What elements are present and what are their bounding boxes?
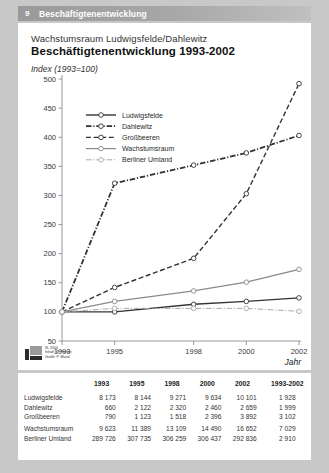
y-tick-label: 200 — [43, 249, 56, 258]
table-row: Großbeeren7901 1231 5182 3963 8923 102 — [18, 412, 311, 422]
table-col-header-2002: 2002 — [228, 377, 263, 390]
legend-label-2: Großbeeren — [122, 134, 160, 141]
table-cell: 660 — [88, 402, 123, 412]
legend-marker-0 — [99, 113, 104, 118]
data-point — [297, 296, 302, 301]
table-cell: 13 109 — [158, 421, 193, 433]
table-cell: 2 122 — [123, 402, 158, 412]
legend-marker-4 — [99, 158, 104, 163]
ifl-logo-icon — [25, 346, 42, 361]
x-axis-title: Jahr — [283, 357, 302, 367]
y-tick-label: 250 — [43, 220, 56, 229]
y-tick-label: 350 — [43, 162, 56, 171]
table-col-header-total: 1993-2002 — [264, 377, 311, 390]
data-point — [112, 306, 117, 311]
table-cell: 2 320 — [158, 402, 193, 412]
table-cell: 1 928 — [264, 390, 311, 402]
table-cell: 2 659 — [228, 402, 263, 412]
series-line-dahlewitz — [62, 135, 299, 311]
table-cell: 10 101 — [228, 390, 263, 402]
table-cell: 8 173 — [88, 390, 123, 402]
table-col-header-blank — [18, 377, 88, 390]
table-row-label: Wachstumsraum — [18, 421, 88, 433]
data-point — [191, 306, 196, 311]
data-point — [191, 256, 196, 261]
table-col-header-2000: 2000 — [193, 377, 228, 390]
table-cell: 292 836 — [228, 433, 263, 444]
y-tick-label: 150 — [43, 278, 56, 287]
data-point — [60, 310, 65, 315]
table-col-header-1998: 1998 — [158, 377, 193, 390]
table-cell: 11 389 — [123, 421, 158, 433]
table-row: Berliner Umland289 726307 735306 259306 … — [18, 433, 311, 444]
table-cell: 1 999 — [264, 402, 311, 412]
legend-label-1: Dahlewitz — [122, 123, 153, 130]
data-point — [297, 267, 302, 272]
table-cell: 3 892 — [228, 412, 263, 422]
data-point — [297, 81, 302, 86]
table-row-label: Ludwigsfelde — [18, 390, 88, 402]
table-body: Ludwigsfelde8 1738 1449 2719 63410 1011 … — [18, 390, 311, 445]
table-row: Dahlewitz6602 1222 3202 4602 6591 999 — [18, 402, 311, 412]
chart-card: Wachstumsraum Ludwigsfelde/Dahlewitz Bes… — [18, 23, 311, 370]
table-cell: 1 123 — [123, 412, 158, 422]
table-cell: 2 910 — [264, 433, 311, 444]
x-tick-label: 1998 — [185, 347, 202, 356]
table-cell: 7 029 — [264, 421, 311, 433]
poster-page: 9 Beschäftigtenentwicklung Wachstumsraum… — [0, 0, 329, 473]
data-point — [244, 306, 249, 311]
data-point — [244, 280, 249, 285]
legend-label-3: Wachstumsraum — [122, 145, 174, 152]
table-cell: 9 623 — [88, 421, 123, 433]
table-row: Wachstumsraum9 62311 38913 10914 49016 6… — [18, 421, 311, 433]
data-point — [244, 191, 249, 196]
table-cell: 306 437 — [193, 433, 228, 444]
legend-label-4: Berliner Umland — [122, 156, 172, 163]
data-point — [112, 299, 117, 304]
table-cell: 14 490 — [193, 421, 228, 433]
credit-block: IfL 2004 Inhalt: G. Herfert Grafik: P. M… — [25, 345, 110, 365]
data-point — [191, 163, 196, 168]
table-cell: 2 460 — [193, 402, 228, 412]
table-card: 199319951998200020021993-2002 Ludwigsfel… — [18, 373, 311, 460]
y-tick-label: 500 — [43, 75, 56, 84]
y-tick-label: 300 — [43, 191, 56, 200]
table-row-label: Dahlewitz — [18, 402, 88, 412]
table-cell: 307 735 — [123, 433, 158, 444]
data-point — [191, 289, 196, 294]
data-point — [244, 299, 249, 304]
table-cell: 289 726 — [88, 433, 123, 444]
data-point — [297, 133, 302, 138]
table-row-label: Großbeeren — [18, 412, 88, 422]
chart-area: 5010015020025030035040045050019931995199… — [18, 23, 311, 370]
line-chart-svg: 5010015020025030035040045050019931995199… — [18, 23, 311, 370]
table-cell: 306 259 — [158, 433, 193, 444]
table-row: Ludwigsfelde8 1738 1449 2719 63410 1011 … — [18, 390, 311, 402]
table-col-header-1993: 1993 — [88, 377, 123, 390]
table-row-label: Berliner Umland — [18, 433, 88, 444]
legend-marker-1 — [99, 124, 104, 129]
data-point — [112, 181, 117, 186]
table-header: 199319951998200020021993-2002 — [18, 377, 311, 390]
table-cell: 3 102 — [264, 412, 311, 422]
legend-marker-2 — [99, 135, 104, 140]
header-bar: 9 Beschäftigtenentwicklung — [18, 6, 311, 21]
y-tick-label: 100 — [43, 307, 56, 316]
data-point — [297, 309, 302, 314]
table-col-header-1995: 1995 — [123, 377, 158, 390]
table-cell: 8 144 — [123, 390, 158, 402]
credit-lines: IfL 2004 Inhalt: G. Herfert Grafik: P. M… — [45, 345, 72, 359]
table-cell: 9 271 — [158, 390, 193, 402]
table-cell: 1 518 — [158, 412, 193, 422]
data-point — [112, 285, 117, 290]
legend-label-0: Ludwigsfelde — [122, 112, 163, 120]
header-number: 9 — [25, 9, 39, 18]
y-tick-label: 400 — [43, 133, 56, 142]
legend-marker-3 — [99, 146, 104, 151]
data-point — [244, 151, 249, 156]
table-cell: 2 396 — [193, 412, 228, 422]
data-table: 199319951998200020021993-2002 Ludwigsfel… — [18, 377, 311, 445]
x-tick-label: 2000 — [238, 347, 255, 356]
table-cell: 9 634 — [193, 390, 228, 402]
x-tick-label: 2002 — [291, 347, 308, 356]
